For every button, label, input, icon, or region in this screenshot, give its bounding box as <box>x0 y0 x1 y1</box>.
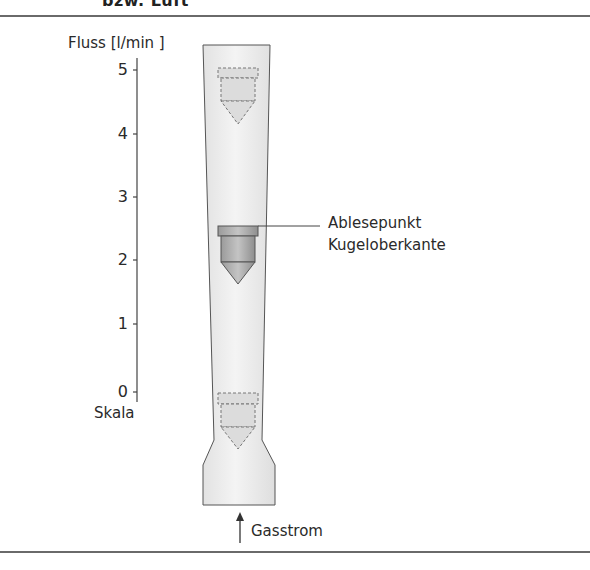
gas-flow-arrow <box>236 512 244 543</box>
tick-label-5: 5 <box>108 60 128 79</box>
tick-label-0: 0 <box>108 382 128 401</box>
scale-caption: Skala <box>94 404 135 422</box>
tick-label-2: 2 <box>108 250 128 269</box>
reading-point-label-line1: Ablesepunkt <box>328 214 421 232</box>
tick-label-4: 4 <box>108 124 128 143</box>
tick-label-1: 1 <box>108 314 128 333</box>
scale-axis <box>133 58 137 402</box>
tick-label-3: 3 <box>108 187 128 206</box>
flowmeter-diagram <box>0 0 590 570</box>
gas-flow-label: Gasstrom <box>251 522 323 540</box>
reading-point-label-line2: Kugeloberkante <box>328 236 446 254</box>
scale-title: Fluss [l/min ] <box>68 34 165 52</box>
